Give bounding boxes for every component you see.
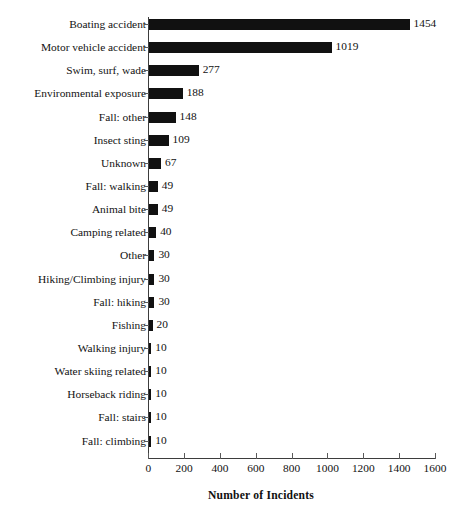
bar-row: Motor vehicle accident1019 [0, 41, 466, 64]
category-label: Fall: other [0, 111, 146, 124]
bar [149, 181, 158, 192]
bar-row: Animal bite49 [0, 203, 466, 226]
bar-row: Boating accident1454 [0, 18, 466, 41]
bar-row: Insect sting109 [0, 134, 466, 157]
bar-value-label: 1454 [414, 17, 437, 30]
category-label: Other [0, 249, 146, 262]
x-axis-tick [363, 453, 364, 459]
category-label: Fall: climbing [0, 435, 146, 448]
bar [149, 320, 153, 331]
plot-area: Boating accident1454Motor vehicle accide… [0, 0, 466, 518]
bar-value-label: 1019 [336, 40, 359, 53]
bar-value-label: 10 [155, 434, 166, 447]
bar-row: Fall: walking49 [0, 180, 466, 203]
bar [149, 112, 176, 123]
x-axis-title: Number of Incidents [0, 489, 466, 502]
category-label: Insect sting [0, 134, 146, 147]
bar-row: Camping related40 [0, 226, 466, 249]
category-label: Fall: stairs [0, 411, 146, 424]
bar-row: Unknown67 [0, 157, 466, 180]
bar-row: Hiking/Climbing injury30 [0, 273, 466, 296]
bar [149, 250, 154, 261]
bar [149, 42, 332, 53]
category-label: Water skiing related [0, 365, 146, 378]
x-axis-tick [184, 453, 185, 459]
bar [149, 204, 158, 215]
bar-row: Swim, surf, wade277 [0, 64, 466, 87]
bar [149, 436, 151, 447]
category-label: Animal bite [0, 203, 146, 216]
x-axis-tick [220, 453, 221, 459]
bar-value-label: 40 [160, 225, 171, 238]
category-label: Fall: hiking [0, 296, 146, 309]
bar-value-label: 148 [180, 110, 197, 123]
x-axis-tick-label: 1000 [307, 462, 347, 475]
x-axis-tick [327, 453, 328, 459]
bar-value-label: 277 [203, 63, 220, 76]
x-axis-tick [292, 453, 293, 459]
bar [149, 65, 199, 76]
x-axis-tick-label: 1200 [343, 462, 383, 475]
bar-row: Fall: climbing10 [0, 435, 466, 458]
bar-value-label: 10 [155, 410, 166, 423]
category-label: Hiking/Climbing injury [0, 273, 146, 286]
category-label: Fall: walking [0, 180, 146, 193]
x-axis-title-label: Number of Incidents [208, 489, 314, 502]
bar-row: Fall: other148 [0, 111, 466, 134]
category-label: Motor vehicle accident [0, 41, 146, 54]
bar [149, 227, 156, 238]
category-label: Environmental exposure [0, 87, 146, 100]
bar-row: Water skiing related10 [0, 365, 466, 388]
bar-value-label: 49 [162, 202, 173, 215]
category-label: Horseback riding [0, 388, 146, 401]
bar [149, 88, 183, 99]
bar-row: Other30 [0, 249, 466, 272]
bar-row: Horseback riding10 [0, 388, 466, 411]
x-axis-tick-label: 1400 [379, 462, 419, 475]
bar [149, 389, 151, 400]
bar [149, 274, 154, 285]
bar-chart: Boating accident1454Motor vehicle accide… [0, 0, 466, 518]
bar-value-label: 109 [173, 133, 190, 146]
bar-value-label: 10 [155, 341, 166, 354]
x-axis-tick [399, 453, 400, 459]
bar [149, 19, 410, 30]
bar-row: Fall: stairs10 [0, 411, 466, 434]
bar-value-label: 10 [155, 387, 166, 400]
bar [149, 343, 151, 354]
bar-row: Walking injury10 [0, 342, 466, 365]
x-axis-tick-label: 800 [272, 462, 312, 475]
x-axis-tick [256, 453, 257, 459]
x-axis-tick-label: 0 [128, 462, 168, 475]
bar-value-label: 10 [155, 364, 166, 377]
bar [149, 366, 151, 377]
bar [149, 297, 154, 308]
bar-value-label: 67 [165, 156, 176, 169]
x-axis-tick [435, 453, 436, 459]
bar-value-label: 30 [158, 248, 169, 261]
category-label: Walking injury [0, 342, 146, 355]
x-axis-tick-label: 400 [200, 462, 240, 475]
bar-value-label: 49 [162, 179, 173, 192]
x-axis-tick [148, 453, 149, 459]
bar-value-label: 20 [157, 318, 168, 331]
bar-value-label: 188 [187, 86, 204, 99]
bar-value-label: 30 [158, 272, 169, 285]
bar [149, 412, 151, 423]
bar-value-label: 30 [158, 295, 169, 308]
category-label: Boating accident [0, 18, 146, 31]
category-label: Camping related [0, 226, 146, 239]
x-axis-tick-label: 200 [164, 462, 204, 475]
bar [149, 135, 169, 146]
bar [149, 158, 161, 169]
x-axis-tick-label: 600 [236, 462, 276, 475]
x-axis-tick-label: 1600 [415, 462, 455, 475]
bar-row: Environmental exposure188 [0, 87, 466, 110]
category-label: Unknown [0, 157, 146, 170]
bar-row: Fishing20 [0, 319, 466, 342]
category-label: Fishing [0, 319, 146, 332]
bar-row: Fall: hiking30 [0, 296, 466, 319]
category-label: Swim, surf, wade [0, 64, 146, 77]
